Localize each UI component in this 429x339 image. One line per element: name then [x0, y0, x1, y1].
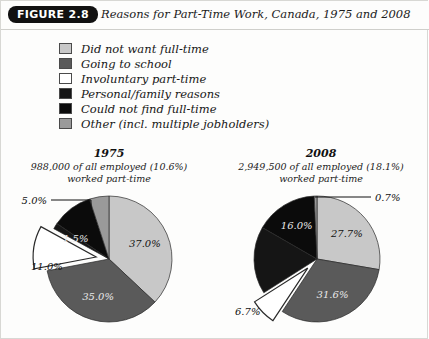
pie-slice-label: 35.0% [82, 291, 114, 302]
pie-year-label: 1975 [9, 147, 209, 160]
pie-year-label: 2008 [219, 147, 423, 160]
pie-slice-label: 31.6% [317, 289, 349, 300]
legend-swatch-did-not-want-full-time [59, 43, 72, 54]
pie-svg-1975: 37.0%35.0%1.5% 5.0%11.0% [9, 187, 209, 337]
legend-swatch-could-not-find-full-time [59, 103, 72, 114]
pie-svg-2008: 27.7%31.6%16.0% 0.7%6.7% [219, 187, 423, 337]
pie-chart-1975: 1975 988,000 of all employed (10.6%) wor… [9, 147, 209, 337]
legend-label: Going to school [81, 57, 172, 71]
pie-slice-label: 37.0% [129, 238, 161, 249]
legend-swatch-personal-family-reasons [59, 88, 72, 99]
callout-other-1975: 5.0% [22, 195, 47, 206]
pie-slices-1975 [33, 196, 172, 322]
legend-label: Did not want full-time [81, 42, 209, 56]
legend-item: Involuntary part-time [59, 71, 269, 86]
legend-label: Personal/family reasons [81, 87, 220, 101]
legend-item: Other (incl. multiple jobholders) [59, 116, 269, 131]
callout-involuntary-2008: 6.7% [235, 306, 260, 317]
legend-label: Other (incl. multiple jobholders) [81, 117, 269, 131]
pie-slice-label: 16.0% [281, 220, 313, 231]
pie-subtitle: 988,000 of all employed (10.6%) worked p… [9, 161, 209, 184]
pie-canvas-2008: 27.7%31.6%16.0% 0.7%6.7% [219, 187, 423, 337]
pie-slice-label: 27.7% [330, 228, 363, 239]
pie-subtitle-line2: worked part-time [9, 173, 209, 185]
figure-title: Reasons for Part-Time Work, Canada, 1975… [101, 7, 410, 21]
pie-slice-label: 1.5% [63, 233, 88, 244]
pie-subtitle-line2: worked part-time [219, 173, 423, 185]
legend-swatch-involuntary-part-time [59, 73, 72, 84]
pie-chart-2008: 2008 2,949,500 of all employed (18.1%) w… [219, 147, 423, 337]
legend-item: Personal/family reasons [59, 86, 269, 101]
legend-item: Could not find full-time [59, 101, 269, 116]
chart-legend: Did not want full-time Going to school I… [59, 41, 269, 131]
callout-involuntary-1975: 11.0% [31, 261, 63, 272]
legend-label: Could not find full-time [81, 102, 216, 116]
figure-number-badge: FIGURE 2.8 [8, 6, 98, 23]
pie-subtitle: 2,949,500 of all employed (18.1%) worked… [219, 161, 423, 184]
legend-item: Did not want full-time [59, 41, 269, 56]
pie-subtitle-line1: 2,949,500 of all employed (18.1%) [219, 161, 423, 173]
pie-canvas-1975: 37.0%35.0%1.5% 5.0%11.0% [9, 187, 209, 337]
callout-other-2008: 0.7% [375, 192, 400, 203]
figure-header: FIGURE 2.8 Reasons for Part-Time Work, C… [1, 1, 429, 30]
legend-swatch-other [59, 118, 72, 129]
legend-swatch-going-to-school [59, 58, 72, 69]
pie-slices-2008 [254, 196, 380, 322]
legend-item: Going to school [59, 56, 269, 71]
pie-subtitle-line1: 988,000 of all employed (10.6%) [9, 161, 209, 173]
legend-label: Involuntary part-time [81, 72, 206, 86]
